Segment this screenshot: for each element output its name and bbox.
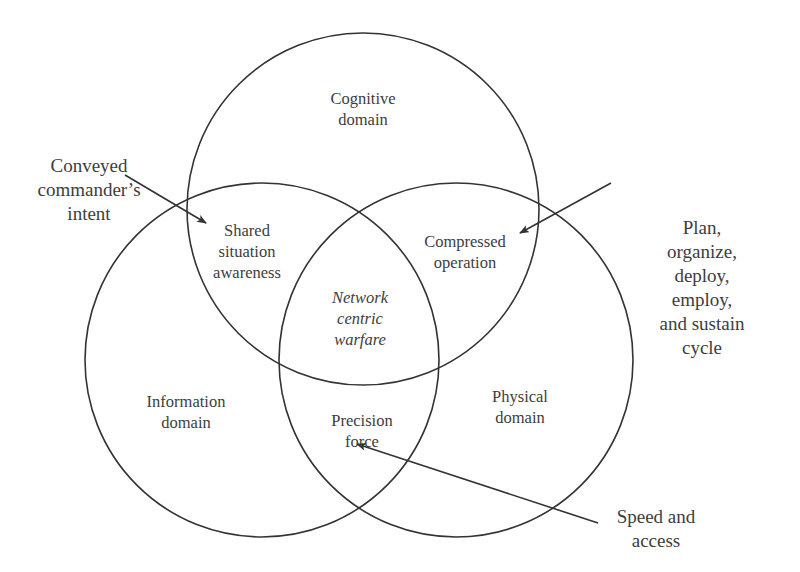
compressed-operation-label: Compressed operation [424,231,506,273]
cognitive-domain-label: Cognitive domain [330,88,395,130]
speed-access-arrow [357,444,598,523]
shared-situation-awareness-label: Shared situation awareness [213,220,281,283]
plan-cycle-annotation: Plan, organize, deploy, employ, and sust… [653,216,751,360]
information-domain-label: Information domain [147,391,226,433]
conveyed-intent-annotation: Conveyed commander’s intent [37,154,140,226]
precision-force-label: Precision force [331,410,392,452]
network-centric-warfare-label: Network centric warfare [332,287,388,350]
plan-cycle-arrow [520,183,611,233]
venn-diagram: Cognitive domain Information domain Phys… [0,0,800,572]
speed-access-annotation: Speed and access [617,505,696,553]
physical-domain-label: Physical domain [492,386,548,428]
